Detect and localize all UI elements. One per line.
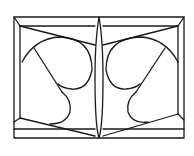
corner-bevels (14, 17, 184, 122)
window-panel-drawing (0, 0, 194, 156)
left-half (20, 26, 95, 136)
center-spindle (95, 17, 103, 138)
right-half (103, 26, 178, 136)
